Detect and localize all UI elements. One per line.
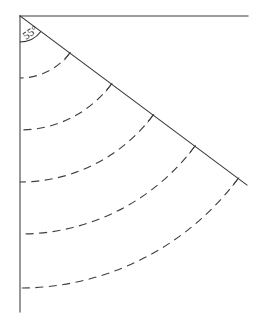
arc-2 xyxy=(20,84,111,130)
arc-5 xyxy=(20,179,238,288)
arc-4 xyxy=(20,146,195,234)
arc-3 xyxy=(20,115,153,182)
diagonal-ray xyxy=(20,16,247,185)
diagram-canvas: 55° xyxy=(0,0,260,331)
dashed-arcs-group xyxy=(20,53,238,288)
angle-sector-diagram: 55° xyxy=(0,0,260,331)
arc-tick-2 xyxy=(106,83,112,91)
arc-1 xyxy=(20,53,70,78)
rays-group xyxy=(20,16,248,312)
arc-tick-1 xyxy=(64,52,70,60)
arc-tick-3 xyxy=(148,114,154,122)
arc-tick-5 xyxy=(233,177,239,185)
angle-label-55-degrees: 55° xyxy=(20,23,40,42)
arc-tick-4 xyxy=(189,145,195,153)
